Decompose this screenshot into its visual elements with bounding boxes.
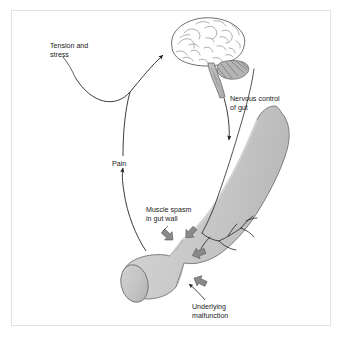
label-underlying-line1: Underlying bbox=[192, 303, 226, 311]
label-tension-and-stress: Tension and stress bbox=[50, 42, 88, 59]
diagram-canvas: Tension and stress Nervous control of gu… bbox=[0, 0, 343, 338]
label-pain-line1: Pain bbox=[112, 160, 126, 168]
label-tension-line2: stress bbox=[50, 51, 69, 59]
pain-loop-upper bbox=[123, 92, 130, 156]
label-muscle-spasm: Muscle spasm in gut wall bbox=[146, 206, 191, 223]
brain-illustration bbox=[172, 18, 249, 98]
arrow-up-pain bbox=[122, 168, 146, 251]
label-spasm-line1: Muscle spasm bbox=[146, 206, 191, 214]
arrow-down-to-gut bbox=[224, 98, 229, 140]
label-nervous-line1: Nervous control bbox=[230, 95, 280, 103]
gut-tube bbox=[122, 106, 289, 299]
label-underlying-malfunction: Underlying malfunction bbox=[192, 303, 228, 320]
leader-line-underlying bbox=[189, 284, 205, 300]
label-nervous-line2: of gut bbox=[230, 104, 248, 112]
label-tension-line1: Tension and bbox=[50, 42, 88, 50]
label-underlying-line2: malfunction bbox=[192, 312, 228, 320]
label-spasm-line2: in gut wall bbox=[146, 215, 178, 223]
arrow-up-to-brain bbox=[75, 55, 163, 102]
label-pain: Pain bbox=[112, 160, 126, 168]
figure-root: Tension and stress Nervous control of gu… bbox=[0, 0, 343, 338]
leader-line-tension bbox=[63, 57, 75, 77]
